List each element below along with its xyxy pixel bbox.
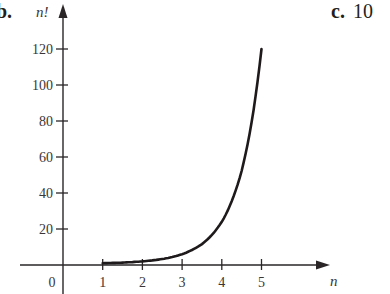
y-tick-label: 120 xyxy=(32,42,53,57)
x-tick-label: 3 xyxy=(179,275,186,290)
x-tick-label: 2 xyxy=(139,275,146,290)
factorial-chart: nn! 01234520406080100120 xyxy=(0,0,390,294)
factorial-curve xyxy=(103,49,262,263)
y-axis-label: n! xyxy=(36,4,49,20)
y-tick-label: 100 xyxy=(32,78,53,93)
x-tick-label: 5 xyxy=(258,275,265,290)
x-axis-arrow-icon xyxy=(316,261,330,270)
y-axis-arrow-icon xyxy=(59,4,68,18)
y-tick-label: 80 xyxy=(39,114,53,129)
y-tick-label: 60 xyxy=(39,150,53,165)
y-tick-label: 40 xyxy=(39,186,53,201)
ticks: 01234520406080100120 xyxy=(32,42,265,290)
axes: nn! xyxy=(20,4,338,294)
x-tick-label: 4 xyxy=(218,275,225,290)
y-tick-label: 20 xyxy=(39,222,53,237)
x-tick-label: 0 xyxy=(49,275,56,290)
x-axis-label: n xyxy=(330,273,338,289)
x-tick-label: 1 xyxy=(99,275,106,290)
